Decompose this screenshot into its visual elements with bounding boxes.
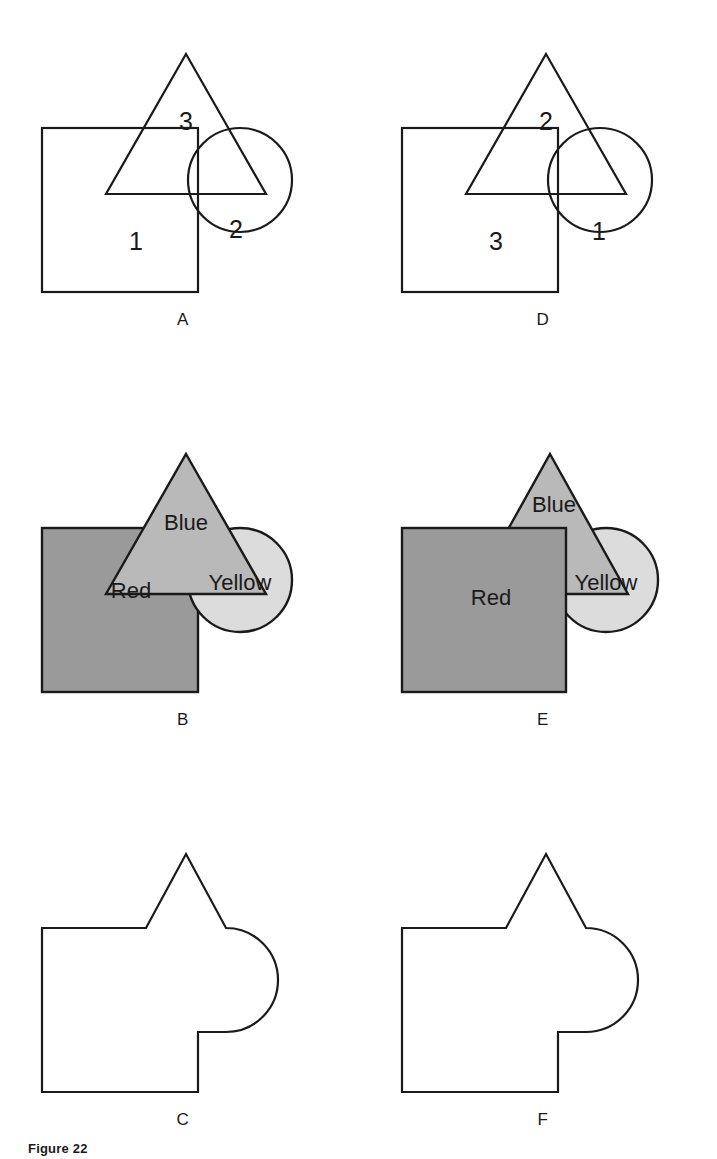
region-number-triangle: 2 (539, 107, 553, 135)
panel-f: F (378, 822, 708, 1152)
region-number-square: 3 (489, 227, 503, 255)
panel-b-canvas: Red Yellow Blue (18, 422, 348, 722)
panel-c: C (18, 822, 348, 1152)
region-number-circle: 2 (229, 215, 243, 243)
color-word-yellow: Yellow (575, 570, 638, 595)
red-square (402, 528, 566, 692)
panel-c-canvas (18, 822, 348, 1122)
figure-caption: Figure 22 (28, 1141, 88, 1156)
region-number-circle: 1 (592, 217, 606, 245)
panel-label-c: C (18, 1110, 348, 1130)
region-number-triangle: 3 (179, 107, 193, 135)
panel-e: Yellow Blue Red E (378, 422, 708, 752)
panel-label-d: D (378, 310, 708, 330)
panel-label-e: E (378, 710, 708, 730)
region-number-square: 1 (129, 227, 143, 255)
panel-b: Red Yellow Blue B (18, 422, 348, 752)
color-word-red: Red (471, 585, 511, 610)
square-outline (42, 128, 198, 292)
color-word-red: Red (111, 578, 151, 603)
union-outline (402, 854, 638, 1092)
panel-d-canvas: 1 2 3 (378, 22, 708, 322)
panel-label-a: A (18, 310, 348, 330)
panel-d: 1 2 3 D (378, 22, 708, 352)
panel-e-canvas: Yellow Blue Red (378, 422, 708, 722)
panel-a: 1 2 3 A (18, 22, 348, 352)
panel-label-f: F (378, 1110, 708, 1130)
panel-a-canvas: 1 2 3 (18, 22, 348, 322)
color-word-blue: Blue (532, 492, 576, 517)
color-word-yellow: Yellow (209, 570, 272, 595)
figure-sheet: 1 2 3 A 1 2 3 D Red Yellow Blue (0, 0, 717, 1159)
color-word-blue: Blue (164, 510, 208, 535)
panel-f-canvas (378, 822, 708, 1122)
square-outline (402, 128, 558, 292)
panel-label-b: B (18, 710, 348, 730)
union-outline (42, 854, 278, 1092)
